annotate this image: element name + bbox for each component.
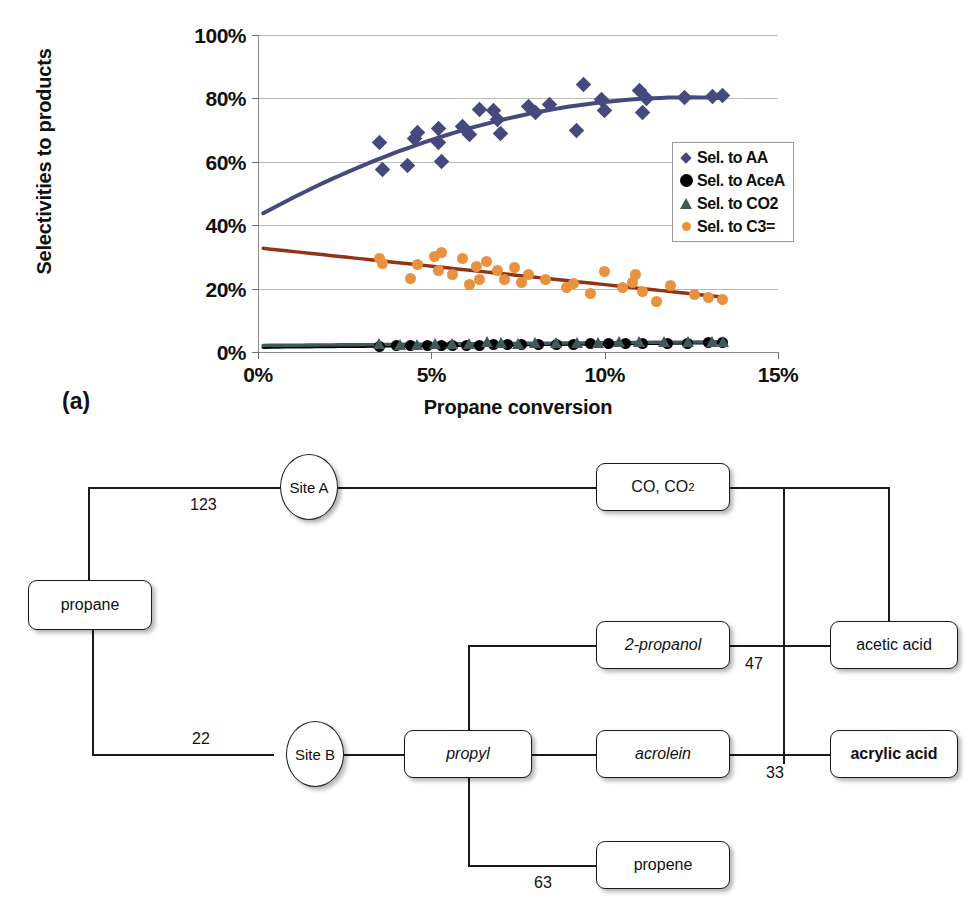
data-point-marker (373, 338, 385, 349)
data-point-marker (617, 282, 628, 293)
edge-label-acrolein-acrylic: 33 (766, 764, 784, 782)
legend-item-sel-to-co2: Sel. to CO2 (678, 192, 789, 215)
data-point-marker (457, 253, 468, 264)
edge-propyl-to-propene (468, 865, 596, 867)
y-tick-mark (252, 35, 259, 36)
data-point-marker (529, 337, 541, 348)
x-axis-title: Propane conversion (258, 396, 778, 419)
y-tick-label: 20% (150, 279, 246, 300)
edge-propane-to-site-b (92, 754, 274, 756)
data-point-marker (433, 265, 444, 276)
data-point-marker (411, 339, 423, 350)
data-point-marker (613, 336, 625, 347)
data-point-marker (447, 269, 458, 280)
y-tick-label: 100% (150, 25, 246, 46)
edge-label-propane-site-b: 22 (192, 730, 210, 748)
node-co-co2[interactable]: CO, CO2 (596, 463, 730, 511)
edge-site-a-to-co-co2 (338, 487, 596, 489)
x-tick-mark (778, 352, 779, 359)
data-point-marker (523, 269, 534, 280)
edge-co-co2-to-right-bus (730, 487, 890, 489)
node-propene[interactable]: propene (596, 841, 730, 889)
circle-marker-icon (678, 174, 694, 187)
panel-a-label: (a) (62, 388, 90, 415)
diagram-panel: propane Site A Site B CO, CO2 2-propanol… (0, 430, 974, 911)
data-point-marker (474, 274, 485, 285)
triangle-marker-icon (678, 198, 694, 209)
data-point-marker (717, 336, 729, 347)
data-point-marker (429, 338, 441, 349)
node-propyl[interactable]: propyl (404, 730, 532, 778)
data-point-marker (405, 273, 416, 284)
edge-down-to-acetic-acid (888, 487, 890, 635)
x-tick-mark (258, 352, 259, 359)
node-2-propanol[interactable]: 2-propanol (596, 621, 730, 669)
data-point-marker (481, 336, 493, 347)
data-point-marker (512, 338, 524, 349)
data-point-marker (550, 337, 562, 348)
legend-label: Sel. to AceA (697, 172, 785, 190)
edge-propyl-to-acrolein (532, 754, 596, 756)
legend-item-sel-to-acea: Sel. to AceA (678, 169, 789, 192)
node-site-a[interactable]: Site A (280, 454, 338, 520)
node-site-b[interactable]: Site B (286, 721, 344, 787)
x-tick-label: 10% (560, 364, 650, 385)
y-tick-label: 0% (150, 342, 246, 363)
data-point-marker (658, 336, 670, 347)
chart-panel: Selectivities to products Propane conver… (0, 0, 974, 430)
x-tick-label: 0% (213, 364, 303, 385)
data-point-marker (651, 296, 662, 307)
legend-label: Sel. to CO2 (697, 195, 778, 213)
data-point-marker (540, 274, 551, 285)
y-tick-mark (252, 225, 259, 226)
data-point-marker (633, 336, 645, 347)
edge-site-b-to-propyl (344, 754, 404, 756)
data-point-marker (446, 338, 458, 349)
x-axis-line (258, 352, 779, 353)
data-point-marker (665, 280, 676, 291)
x-tick-label: 15% (733, 364, 823, 385)
node-acrolein[interactable]: acrolein (596, 730, 730, 778)
edge-propyl-down (468, 778, 470, 866)
y-tick-mark (252, 162, 259, 163)
legend-item-sel-to-aa: Sel. to AA (678, 146, 789, 169)
x-tick-mark (605, 352, 606, 359)
diamond-marker-icon (678, 154, 694, 162)
edge-2-propanol-to-acetic-acid (730, 645, 830, 647)
data-point-marker (585, 288, 596, 299)
edge-label-propanol-acetic: 47 (745, 655, 763, 673)
chart-title-artifact (100, 0, 560, 6)
edge-vertical-bus (783, 487, 785, 764)
circle-marker-icon (678, 222, 694, 231)
data-point-marker (571, 337, 583, 348)
y-tick-mark (252, 289, 259, 290)
data-point-marker (499, 274, 510, 285)
data-point-marker (394, 339, 406, 350)
data-point-marker (495, 337, 507, 348)
node-propane[interactable]: propane (28, 580, 152, 630)
y-tick-label: 40% (150, 215, 246, 236)
data-point-marker (436, 247, 447, 258)
edge-propane-down (92, 630, 94, 755)
data-point-marker (592, 337, 604, 348)
y-tick-label: 60% (150, 152, 246, 173)
node-acrylic-acid[interactable]: acrylic acid (830, 730, 958, 778)
data-point-marker (471, 261, 482, 272)
y-tick-mark (252, 98, 259, 99)
node-acetic-acid[interactable]: acetic acid (830, 621, 958, 669)
legend-label: Sel. to C3= (697, 218, 775, 236)
y-tick-label: 80% (150, 88, 246, 109)
edge-label-propane-site-a: 123 (190, 496, 217, 514)
x-tick-label: 5% (386, 364, 476, 385)
edge-propane-to-site-a (88, 487, 280, 489)
edge-propyl-to-2-propanol (468, 645, 596, 647)
legend-label: Sel. to AA (697, 149, 768, 167)
edge-propyl-up (468, 645, 470, 730)
chart-legend: Sel. to AA Sel. to AceA Sel. to CO2 Sel.… (672, 142, 794, 242)
legend-item-sel-to-c3: Sel. to C3= (678, 215, 789, 238)
data-point-marker (463, 338, 475, 349)
x-tick-mark (431, 352, 432, 359)
edge-propane-up (88, 487, 90, 580)
edge-label-propyl-propene: 63 (534, 874, 552, 892)
data-point-marker (682, 336, 694, 347)
